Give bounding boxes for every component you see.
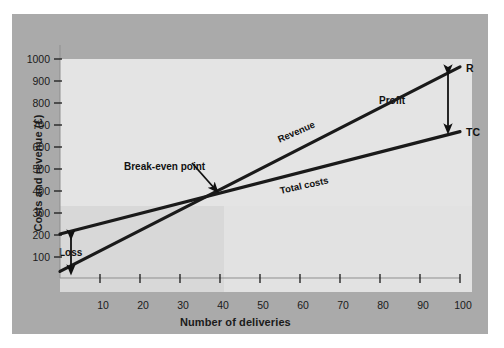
revenue-line — [60, 67, 460, 272]
break-even-chart-figure: 1000 900 800 700 600 500 400 300 200 100… — [0, 0, 504, 348]
axis-spines — [60, 45, 460, 278]
break-even-arrow — [192, 163, 215, 189]
chart-vector-layer — [0, 0, 504, 348]
y-axis-ticks — [54, 59, 62, 257]
total-costs-line — [60, 132, 460, 234]
